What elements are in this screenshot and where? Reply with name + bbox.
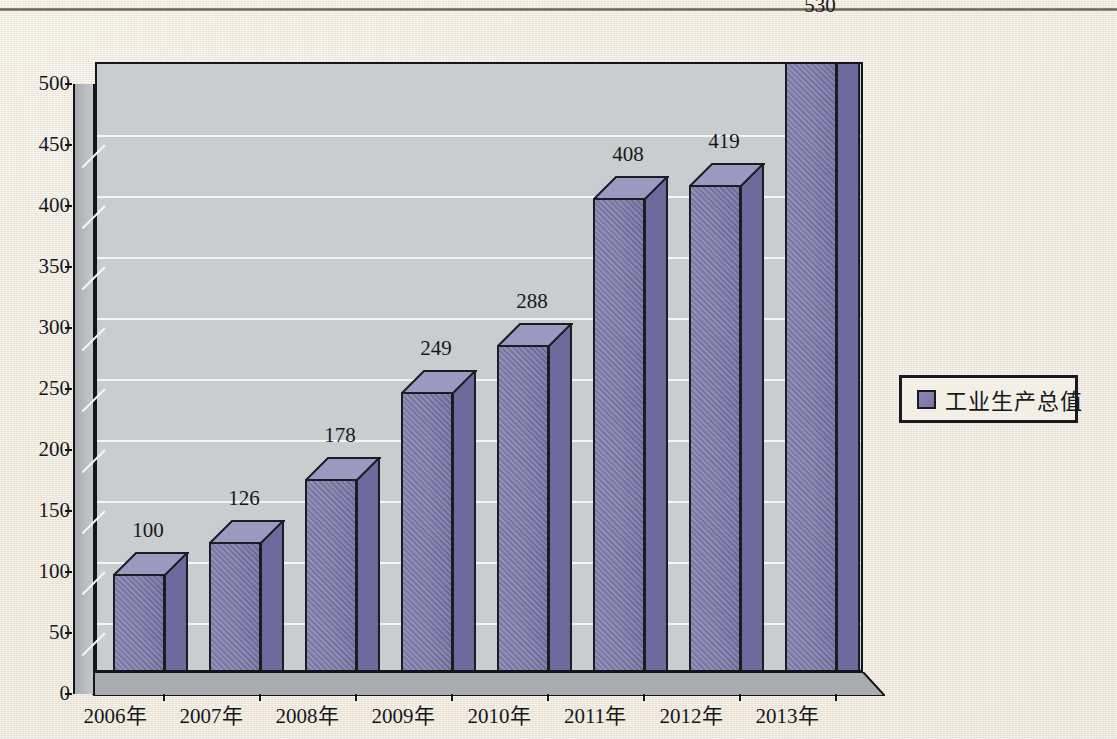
legend-color-swatch-icon (917, 390, 936, 409)
x-axis-tick-label: 2009年 (365, 706, 441, 727)
y-axis-tick-label: 50 (8, 622, 70, 643)
y-axis-tick-label: 500 (8, 73, 70, 94)
x-axis-tick-label: 2006年 (77, 706, 153, 727)
y-axis-tick-label: 0 (8, 683, 70, 704)
y-axis-tick-label: 150 (8, 500, 70, 521)
x-axis-tick-mark (547, 694, 549, 701)
bar-side-face (356, 457, 380, 672)
bar-value-label: 178 (314, 425, 366, 446)
bar-side-face (740, 163, 764, 672)
y-axis-tick-mark (65, 571, 72, 573)
bar-side-face (836, 62, 860, 672)
x-axis-tick-label: 2010年 (461, 706, 537, 727)
legend-series-label: 工业生产总值 (945, 383, 1083, 415)
bar-2009年 (401, 392, 453, 672)
y-axis-tick-mark (65, 205, 72, 207)
y-axis-tick-label: 200 (8, 439, 70, 460)
bar-value-label: 288 (506, 291, 558, 312)
y-axis-tick-label: 450 (8, 134, 70, 155)
plot-area (95, 62, 863, 672)
bar-value-label: 530 (794, 0, 846, 16)
y-axis-tick-mark (65, 510, 72, 512)
bar-side-face (548, 323, 572, 672)
bar-side-face (452, 370, 476, 672)
x-axis-tick-label: 2007年 (173, 706, 249, 727)
x-axis-tick-mark (163, 694, 165, 701)
bar-value-label: 408 (602, 144, 654, 165)
bar-2013年 (785, 62, 837, 672)
x-axis-tick-label: 2012年 (653, 706, 729, 727)
y-axis-tick-mark (65, 327, 72, 329)
bar-2012年 (689, 185, 741, 672)
bar-value-label: 100 (122, 520, 174, 541)
x-axis-tick-mark (259, 694, 261, 701)
plot-left-wall-3d (73, 84, 95, 694)
y-axis-tick-label: 400 (8, 195, 70, 216)
x-axis-tick-mark (451, 694, 453, 701)
bar-value-label: 419 (698, 131, 750, 152)
y-axis-tick-label: 250 (8, 378, 70, 399)
x-axis-tick-mark (739, 694, 741, 701)
bar-2010年 (497, 345, 549, 672)
bar-value-label: 126 (218, 488, 270, 509)
bar-side-face (164, 552, 188, 672)
bar-2008年 (305, 479, 357, 672)
y-axis-tick-mark (65, 388, 72, 390)
x-axis-tick-label: 2011年 (557, 706, 633, 727)
y-axis-tick-mark (65, 144, 72, 146)
bar-side-face (644, 176, 668, 672)
x-axis-tick-label: 2008年 (269, 706, 345, 727)
y-axis-tick-label: 300 (8, 317, 70, 338)
bar-value-label: 249 (410, 338, 462, 359)
y-axis-tick-mark (65, 83, 72, 85)
y-axis-tick-mark (65, 449, 72, 451)
chart-legend: 工业生产总值 (899, 375, 1078, 423)
bar-2011年 (593, 198, 645, 672)
bar-2007年 (209, 542, 261, 672)
y-axis-tick-label: 100 (8, 561, 70, 582)
y-axis-tick-mark (65, 266, 72, 268)
plot-floor-3d (73, 672, 885, 696)
y-axis-tick-mark (65, 693, 72, 695)
bar-2006年 (113, 574, 165, 672)
bar-side-face (260, 520, 284, 672)
x-axis-tick-mark (643, 694, 645, 701)
x-axis-tick-mark (355, 694, 357, 701)
x-axis-tick-label: 2013年 (749, 706, 825, 727)
y-axis-tick-label: 350 (8, 256, 70, 277)
y-axis-tick-mark (65, 632, 72, 634)
bar-chart-figure: 500450400350300250200150100500 100126178… (0, 0, 1117, 739)
x-axis-tick-mark (835, 694, 837, 701)
